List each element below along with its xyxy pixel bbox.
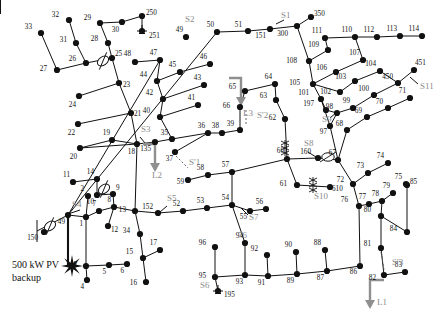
bus-node-18[interactable] — [134, 141, 140, 147]
bus-node-32[interactable] — [66, 17, 72, 23]
bus-node-103[interactable] — [352, 78, 358, 84]
bus-node-15[interactable] — [140, 255, 146, 261]
bus-node-96[interactable] — [212, 244, 218, 250]
bus-node-74[interactable] — [385, 160, 391, 166]
bus-node-49[interactable] — [65, 212, 71, 218]
bus-node-34[interactable] — [137, 231, 143, 237]
bus-node-2[interactable] — [85, 193, 91, 199]
bus-node-40[interactable] — [157, 114, 163, 120]
bus-node-47[interactable] — [157, 57, 163, 63]
bus-node-78[interactable] — [379, 198, 385, 204]
bus-node-1[interactable] — [83, 214, 89, 220]
bus-node-150[interactable] — [41, 229, 47, 235]
bus-node-17[interactable] — [157, 247, 163, 253]
bus-node-39[interactable] — [237, 127, 243, 133]
bus-node-56[interactable] — [263, 206, 269, 212]
bus-node-70[interactable] — [385, 105, 391, 111]
bus-node-86[interactable] — [357, 263, 363, 269]
bus-node-89[interactable] — [294, 271, 300, 277]
bus-node-53[interactable] — [204, 205, 210, 211]
bus-node-58[interactable] — [205, 172, 211, 178]
bus-node-60[interactable] — [284, 156, 290, 162]
bus-node-4[interactable] — [84, 277, 90, 283]
bus-node-83[interactable] — [402, 269, 408, 275]
bus-node-61[interactable] — [294, 182, 300, 188]
bus-node-26[interactable] — [83, 60, 89, 66]
bus-node-24[interactable] — [76, 93, 82, 99]
bus-node-38[interactable] — [219, 130, 225, 136]
bus-node-7[interactable] — [96, 208, 102, 214]
bus-node-84[interactable] — [404, 229, 410, 235]
bus-node-76[interactable] — [356, 203, 362, 209]
bus-node-69[interactable] — [364, 114, 370, 120]
bus-node-30[interactable] — [119, 19, 125, 25]
bus-node-3[interactable] — [83, 263, 89, 269]
bus-node-102[interactable] — [337, 89, 343, 95]
bus-node-29[interactable] — [97, 20, 103, 26]
bus-node-79[interactable] — [390, 190, 396, 196]
bus-node-14[interactable] — [94, 176, 100, 182]
bus-node-92[interactable] — [264, 252, 270, 258]
bus-node-90[interactable] — [293, 249, 299, 255]
bus-node-109[interactable] — [325, 47, 331, 53]
bus-node-6[interactable] — [124, 261, 130, 267]
bus-node-10[interactable] — [94, 192, 100, 198]
bus-node-20[interactable] — [77, 145, 83, 151]
bus-node-35[interactable] — [169, 136, 175, 142]
bus-node-36[interactable] — [205, 130, 211, 136]
bus-node-45[interactable] — [177, 69, 183, 75]
bus-node-160[interactable] — [315, 155, 321, 161]
bus-node-62[interactable] — [282, 116, 288, 122]
bus-node-19[interactable] — [109, 137, 115, 143]
bus-node-300[interactable] — [294, 23, 300, 29]
bus-node-68[interactable] — [344, 127, 350, 133]
bus-node-108[interactable] — [306, 58, 312, 64]
bus-node-73[interactable] — [365, 170, 371, 176]
bus-node-67[interactable] — [335, 157, 341, 163]
bus-node-49[interactable] — [183, 34, 189, 40]
bus-node-250[interactable] — [139, 13, 145, 19]
bus-node-11[interactable] — [70, 179, 76, 185]
bus-node-111[interactable] — [322, 35, 328, 41]
bus-node-105[interactable] — [310, 81, 316, 87]
bus-node-23[interactable] — [116, 80, 122, 86]
bus-node-27[interactable] — [54, 67, 60, 73]
bus-node-82[interactable] — [381, 272, 387, 278]
bus-node-94[interactable] — [242, 240, 248, 246]
bus-node-43[interactable] — [201, 82, 207, 88]
bus-node-91[interactable] — [265, 273, 271, 279]
bus-node-44[interactable] — [154, 78, 160, 84]
bus-node-113[interactable] — [397, 33, 403, 39]
bus-node-151[interactable] — [267, 26, 273, 32]
bus-node-46[interactable] — [207, 61, 213, 67]
bus-node-63[interactable] — [273, 97, 279, 103]
bus-node-112[interactable] — [374, 34, 380, 40]
bus-node-95[interactable] — [212, 274, 218, 280]
bus-node-152[interactable] — [155, 210, 161, 216]
bus-node-110[interactable] — [352, 34, 358, 40]
bus-node-59[interactable] — [185, 177, 191, 183]
bus-node-51[interactable] — [245, 28, 251, 34]
bus-node-197[interactable] — [323, 107, 329, 113]
bus-node-87[interactable] — [324, 268, 330, 274]
bus-node-33[interactable] — [38, 30, 44, 36]
bus-node-48[interactable] — [132, 59, 138, 65]
bus-node-88[interactable] — [322, 247, 328, 253]
bus-node-31[interactable] — [73, 40, 79, 46]
bus-node-72[interactable] — [350, 181, 356, 187]
bus-node-251[interactable] — [139, 28, 145, 34]
bus-node-54[interactable] — [229, 202, 235, 208]
bus-node-71[interactable] — [407, 95, 413, 101]
bus-node-57[interactable] — [229, 169, 235, 175]
bus-node-52[interactable] — [180, 208, 186, 214]
bus-node-195[interactable] — [215, 288, 221, 294]
bus-node-16[interactable] — [143, 279, 149, 285]
bus-node-13[interactable] — [132, 208, 138, 214]
bus-node-98[interactable] — [334, 110, 340, 116]
bus-node-114[interactable] — [419, 33, 425, 39]
bus-node-101[interactable] — [318, 96, 324, 102]
bus-node-42[interactable] — [160, 96, 166, 102]
bus-node-65[interactable] — [242, 88, 248, 94]
bus-node-8[interactable] — [111, 204, 117, 210]
bus-node-5[interactable] — [106, 262, 112, 268]
